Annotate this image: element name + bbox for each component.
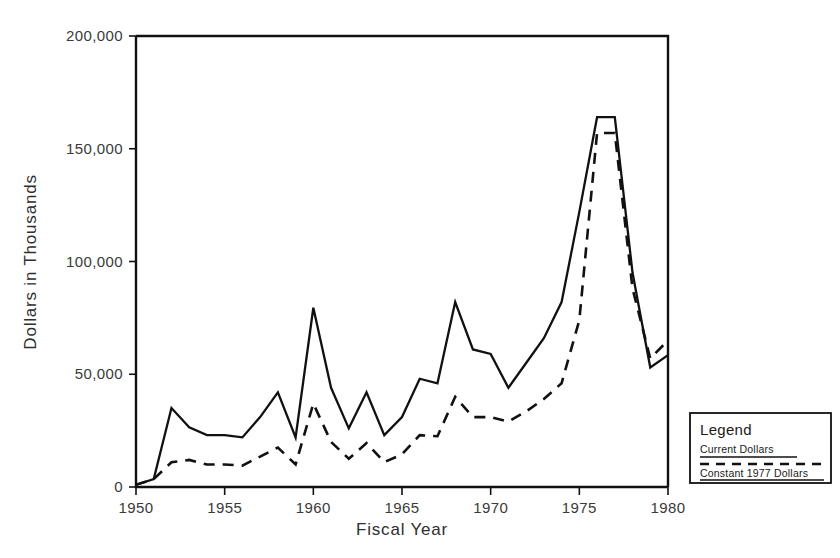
legend-title: Legend [700,421,752,438]
x-tick-label: 1950 [119,499,154,516]
y-axis-ticks: 050,000100,000150,000200,000 [66,27,136,495]
plot-series-group [136,117,668,485]
y-tick-label: 200,000 [66,27,123,44]
y-tick-label: 50,000 [75,365,123,382]
y-tick-label: 0 [114,478,123,495]
y-tick-label: 150,000 [66,140,123,157]
chart-svg: Dollars in Thousands Fiscal Year 050,000… [0,0,840,558]
series-line-constant-1977-dollars [136,133,668,485]
series-line-current-dollars [136,117,668,485]
x-axis-title: Fiscal Year [356,520,448,539]
x-tick-label: 1970 [473,499,508,516]
legend-entry-1-label: Constant 1977 Dollars [700,467,808,479]
x-axis-ticks: 1950195519601965197019751980 [119,487,686,516]
x-tick-label: 1960 [296,499,331,516]
x-tick-label: 1965 [385,499,420,516]
x-tick-label: 1975 [562,499,597,516]
legend-entry-0-label: Current Dollars [700,443,774,455]
axis-lines [136,36,668,487]
y-tick-label: 100,000 [66,253,123,270]
x-tick-label: 1980 [651,499,686,516]
legend: Legend Current Dollars Constant 1977 Dol… [690,413,831,483]
y-axis-title: Dollars in Thousands [21,174,40,349]
chart-figure: Dollars in Thousands Fiscal Year 050,000… [0,0,840,558]
x-tick-label: 1955 [207,499,242,516]
